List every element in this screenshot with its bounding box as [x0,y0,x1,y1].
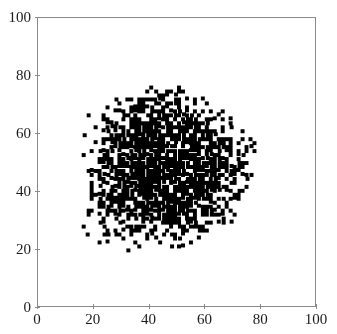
x-axis-tick [316,304,317,309]
scatter-plot-canvas [38,18,315,306]
x-axis-tick-label: 20 [73,312,113,327]
x-axis-tick-label: 80 [240,312,280,327]
y-axis-tick-label: 100 [3,10,31,25]
x-axis-tick-label: 0 [17,312,57,327]
y-axis-tick-label: 60 [3,126,31,141]
y-axis-tick-label: 20 [3,242,31,257]
y-axis-tick-label: 80 [3,68,31,83]
x-axis-tick [260,304,261,309]
y-axis-tick [35,133,40,134]
x-axis-tick-label: 40 [129,312,169,327]
y-axis-tick-label: 40 [3,184,31,199]
y-axis-tick [35,249,40,250]
y-axis-tick [35,17,40,18]
x-axis-tick [93,304,94,309]
x-axis-tick-label: 100 [296,312,336,327]
chart-root: 020406080100 020406080100 [0,0,337,334]
x-axis-tick [37,304,38,309]
y-axis-tick [35,75,40,76]
x-axis-tick [149,304,150,309]
x-axis-tick-label: 60 [184,312,224,327]
x-axis-tick [204,304,205,309]
plot-area [37,17,316,307]
y-axis-tick [35,191,40,192]
